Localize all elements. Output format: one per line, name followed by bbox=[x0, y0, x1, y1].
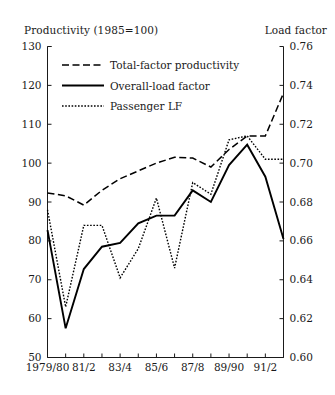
left-axis-tick-label: 60 bbox=[28, 312, 41, 324]
right-axis-tick-label: 0.68 bbox=[290, 196, 313, 208]
left-axis-tick-label: 90 bbox=[28, 196, 41, 208]
right-axis-title: Load factor bbox=[265, 24, 327, 36]
x-axis-tick-label: 91/2 bbox=[254, 361, 278, 373]
left-axis: 5060708090100110120130 bbox=[21, 40, 51, 363]
left-axis-tick-label: 80 bbox=[28, 234, 41, 246]
legend-label-2: Overall-load factor bbox=[110, 80, 211, 92]
plot-area: 5060708090100110120130 0.600.620.640.660… bbox=[0, 0, 335, 395]
legend-label-1: Total-factor productivity bbox=[110, 59, 239, 71]
x-axis: 1979/8081/283/485/687/889/9091/2 bbox=[26, 354, 284, 373]
right-axis-tick-label: 0.60 bbox=[290, 351, 313, 363]
x-axis-tick-label: 87/8 bbox=[181, 361, 205, 373]
series-line-3 bbox=[48, 136, 284, 307]
x-axis-tick-label: 85/6 bbox=[145, 361, 169, 373]
left-axis-tick-label: 130 bbox=[21, 40, 41, 52]
legend-label-3: Passenger LF bbox=[110, 100, 182, 112]
left-axis-tick-label: 70 bbox=[28, 273, 41, 285]
chart-legend: Total-factor productivityOverall-load fa… bbox=[62, 59, 239, 112]
x-axis-tick-label: 81/2 bbox=[72, 361, 96, 373]
x-axis-tick-label: 1979/80 bbox=[26, 361, 70, 373]
right-axis-tick-label: 0.72 bbox=[290, 118, 313, 130]
left-axis-tick-label: 100 bbox=[21, 157, 41, 169]
right-axis: 0.600.620.640.660.680.700.720.740.76 bbox=[280, 40, 314, 363]
right-axis-tick-label: 0.70 bbox=[290, 157, 313, 169]
left-axis-title: Productivity (1985=100) bbox=[24, 24, 158, 36]
left-axis-tick-label: 120 bbox=[21, 79, 41, 91]
right-axis-tick-label: 0.74 bbox=[290, 79, 314, 91]
right-axis-tick-label: 0.62 bbox=[290, 312, 313, 324]
left-axis-tick-label: 110 bbox=[21, 118, 41, 130]
x-axis-tick-label: 83/4 bbox=[108, 361, 132, 373]
series-lines bbox=[48, 93, 284, 328]
series-line-2 bbox=[48, 145, 284, 329]
right-axis-tick-label: 0.76 bbox=[290, 40, 314, 52]
right-axis-tick-label: 0.64 bbox=[290, 273, 314, 285]
right-axis-tick-label: 0.66 bbox=[290, 234, 314, 246]
chart-figure: Productivity (1985=100) Load factor 5060… bbox=[0, 0, 335, 395]
x-axis-tick-label: 89/90 bbox=[214, 361, 244, 373]
